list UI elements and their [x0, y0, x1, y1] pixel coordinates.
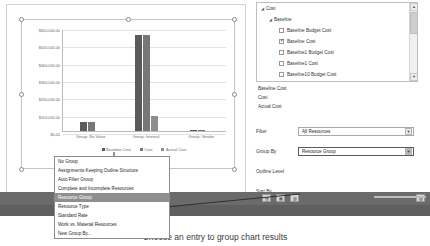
y-axis-tick-label: $300,000.00 [39, 80, 60, 85]
resize-handle-sw[interactable] [19, 167, 24, 172]
screenshot-root: $600,000.00$500,000.00$400,000.00$300,00… [0, 0, 430, 246]
dropdown-item[interactable]: Standard Rate [55, 211, 169, 220]
y-axis-tick-label: $100,000.00 [39, 114, 60, 119]
checkbox[interactable] [279, 61, 284, 66]
bar-group [80, 30, 103, 131]
tree-item-label: Baseline [274, 17, 292, 22]
scroll-up-arrow-icon[interactable]: ▲ [410, 3, 418, 11]
checkbox[interactable] [279, 50, 284, 55]
filter-row: Filter All Resources ▼ [256, 126, 414, 136]
chart-object[interactable]: $600,000.00$500,000.00$400,000.00$300,00… [21, 19, 235, 169]
checkbox[interactable] [279, 28, 284, 33]
chevron-down-icon[interactable]: ▼ [405, 128, 412, 135]
field-tree-scrollbar[interactable]: ▲ ▼ [409, 3, 417, 81]
y-axis-tick-label: $500,000.00 [39, 45, 60, 50]
tree-item-label: Cost [266, 6, 275, 11]
bar [88, 122, 95, 131]
dropdown-item[interactable]: Complete and Incomplete Resources [55, 184, 169, 193]
tree-item-label: Baseline Budget Cost [287, 28, 331, 33]
tree-item-baseline-cost[interactable]: Baseline Cost [257, 36, 417, 47]
resize-handle-se[interactable] [232, 167, 237, 172]
checkbox[interactable] [279, 39, 284, 44]
dropdown-item[interactable]: Work vs. Material Resources [55, 220, 169, 229]
tree-item-label: Baseline1 Budget Cost [287, 50, 334, 55]
dropdown-item[interactable]: Assignments Keeping Outline Structure [55, 166, 169, 175]
bar [143, 35, 150, 131]
selected-field-item: Actual Cost [256, 104, 418, 113]
scrollbar-thumb[interactable] [410, 12, 418, 34]
dropdown-item[interactable]: Auto Filter Group [55, 175, 169, 184]
y-axis-tick-label: $200,000.00 [39, 97, 60, 102]
selected-field-item: Cost [256, 95, 418, 104]
dropdown-item[interactable]: New Group By... [55, 229, 169, 238]
tree-item-baseline10-budget-cost[interactable]: Baseline10 Budget Cost [257, 69, 417, 80]
bar [135, 35, 142, 131]
resize-handle-nw[interactable] [19, 17, 24, 22]
bar-group [190, 30, 213, 131]
chart-plot-area: $600,000.00$500,000.00$400,000.00$300,00… [62, 30, 226, 132]
resize-handle-e[interactable] [232, 92, 237, 97]
filter-label: Filter [256, 129, 298, 134]
dropdown-item[interactable]: No Group [55, 157, 169, 166]
bar [198, 130, 205, 131]
bar [190, 130, 197, 131]
resize-handle-n[interactable] [126, 17, 131, 22]
x-axis-category-label: Group: No Value [76, 134, 106, 139]
dropdown-item[interactable]: Resource Group [55, 193, 169, 202]
tree-item-label: Baseline1 Cost [287, 61, 318, 66]
tree-item-label: Baseline10 Budget Cost [287, 72, 336, 77]
tree-item-baseline1-cost[interactable]: Baseline1 Cost [257, 58, 417, 69]
scroll-down-arrow-icon[interactable]: ▼ [410, 73, 418, 81]
bar [80, 122, 87, 131]
filter-combobox[interactable]: All Resources ▼ [298, 127, 414, 136]
selected-fields-list: Baseline CostCostActual Cost [256, 86, 418, 113]
bar-group [135, 30, 158, 131]
resize-handle-ne[interactable] [232, 17, 237, 22]
field-tree-rows: ◢Cost◢BaselineBaseline Budget CostBaseli… [257, 3, 417, 80]
x-axis-category-label: Group: Vendor [188, 134, 214, 139]
group-by-dropdown-list[interactable]: No GroupAssignments Keeping Outline Stru… [54, 156, 170, 239]
y-axis-tick-label: $400,000.00 [39, 62, 60, 67]
y-axis-tick-label: $0.00 [50, 132, 60, 137]
dropdown-item[interactable]: Resource Type [55, 202, 169, 211]
tree-node-cost[interactable]: ◢Cost [257, 3, 417, 14]
field-tree-listbox[interactable]: ◢Cost◢BaselineBaseline Budget CostBaseli… [256, 2, 418, 82]
tree-item-baseline-budget-cost[interactable]: Baseline Budget Cost [257, 25, 417, 36]
filter-value: All Resources [302, 129, 330, 134]
resize-handle-w[interactable] [19, 92, 24, 97]
y-axis-tick-label: $600,000.00 [39, 28, 60, 33]
tree-node-baseline[interactable]: ◢Baseline [257, 14, 417, 25]
tree-item-label: Baseline Cost [287, 39, 315, 44]
selected-field-item: Baseline Cost [256, 86, 418, 95]
tree-item-baseline1-budget-cost[interactable]: Baseline1 Budget Cost [257, 47, 417, 58]
checkbox[interactable] [279, 72, 284, 77]
x-axis-category-label: Group: Internal [133, 134, 160, 139]
bar [151, 116, 158, 131]
